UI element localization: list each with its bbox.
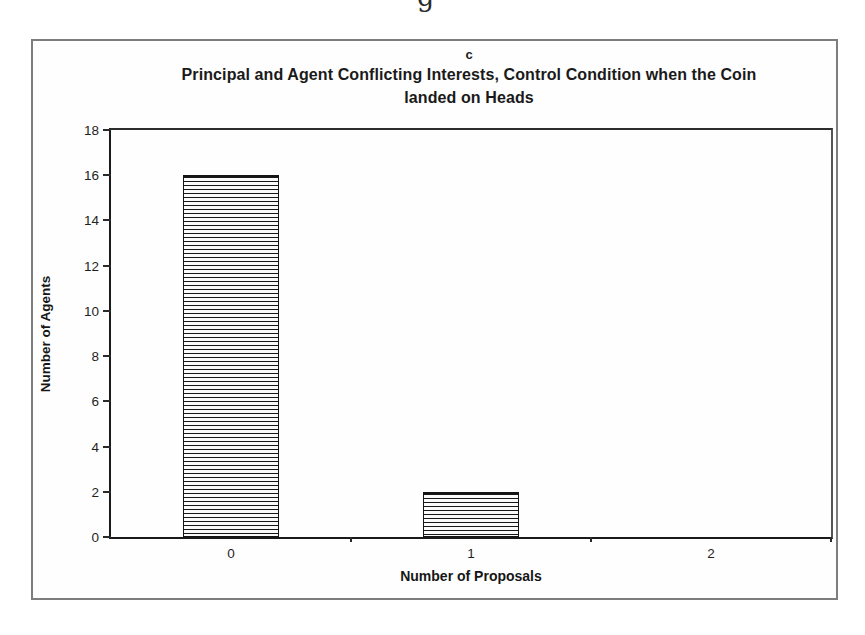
chart-figure-box: c Principal and Agent Conflicting Intere…: [31, 39, 838, 600]
y-axis-tick-2: [103, 491, 111, 493]
x-axis-tick-label-1: 1: [441, 546, 501, 561]
y-axis-tick-label-6: 6: [59, 394, 99, 409]
y-axis-tick-0: [103, 536, 111, 538]
x-axis-boundary-tick-3: [830, 537, 832, 542]
chart-title-line-2: landed on Heads: [109, 86, 829, 109]
y-axis-tick-16: [103, 174, 111, 176]
y-axis-tick-label-0: 0: [59, 530, 99, 545]
y-axis-title: Number of Agents: [38, 275, 53, 392]
cropped-caption-fragment: g: [415, 0, 447, 12]
bar-category-1: [423, 492, 519, 537]
plot-area: Number of Agents Number of Proposals 024…: [109, 128, 833, 539]
cropped-letter: g: [417, 0, 434, 12]
y-axis-tick-label-4: 4: [59, 439, 99, 454]
y-axis-tick-6: [103, 400, 111, 402]
x-axis-tick-label-2: 2: [681, 546, 741, 561]
y-axis-tick-label-8: 8: [59, 349, 99, 364]
x-axis-boundary-tick-1: [350, 537, 352, 542]
y-axis-tick-14: [103, 219, 111, 221]
x-axis-boundary-tick-2: [590, 537, 592, 542]
y-axis-tick-label-18: 18: [59, 123, 99, 138]
chart-title-area: c Principal and Agent Conflicting Intere…: [109, 47, 829, 109]
x-axis-title: Number of Proposals: [111, 568, 831, 584]
y-axis-tick-label-2: 2: [59, 484, 99, 499]
y-axis-tick-18: [103, 129, 111, 131]
y-axis-tick-label-10: 10: [59, 303, 99, 318]
y-axis-tick-label-16: 16: [59, 168, 99, 183]
y-axis-tick-label-12: 12: [59, 258, 99, 273]
y-axis-tick-label-14: 14: [59, 213, 99, 228]
y-axis-tick-4: [103, 446, 111, 448]
y-axis-tick-8: [103, 355, 111, 357]
y-axis-tick-12: [103, 265, 111, 267]
chart-title-line-1: Principal and Agent Conflicting Interest…: [109, 63, 829, 86]
page: { "figure": { "top_text_fragment": "g" }…: [0, 0, 865, 635]
bar-category-0: [183, 175, 279, 537]
y-axis-tick-10: [103, 310, 111, 312]
x-axis-tick-label-0: 0: [201, 546, 261, 561]
panel-label: c: [109, 47, 829, 63]
